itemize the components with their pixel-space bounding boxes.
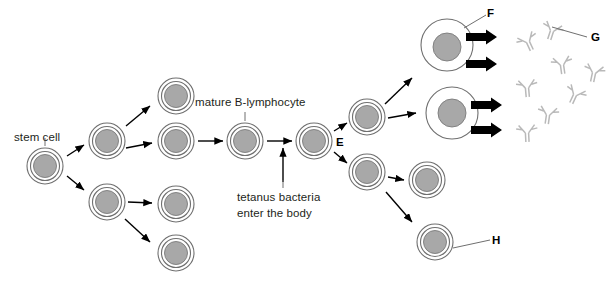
immunology-diagram: stem cell mature B-lymphocyte tetanus ba… <box>0 0 611 296</box>
arrow-daughter-upper-to-plasma-upper <box>385 78 412 104</box>
daughter-upper <box>349 99 385 135</box>
arrow-activated-to-daughter-upper <box>334 123 347 131</box>
cell-gen2-mid <box>158 123 194 159</box>
arrow-gen1l-to-gen2bottom <box>125 219 150 242</box>
label-tetanus-line1: tetanus bacteria <box>237 191 321 203</box>
arrow-daughter-lower-to-memory-lower <box>386 192 412 222</box>
label-tetanus-line2: enter the body <box>237 207 312 219</box>
antibody-8 <box>536 106 559 126</box>
label-h: H <box>492 234 500 246</box>
antibody-1 <box>515 30 541 54</box>
arrow-stem-to-upper <box>67 145 84 156</box>
arrow-gen1u-to-gen2mid <box>126 143 152 148</box>
arrow-gen1l-to-gen2low <box>128 202 152 203</box>
label-stem-cell: stem cell <box>14 131 60 143</box>
antibody-4 <box>582 63 606 84</box>
cell-gen2-bottom <box>158 235 194 271</box>
antibody-7 <box>516 124 538 142</box>
arrow-gen1u-to-gen2top <box>126 106 150 126</box>
memory-cell-lower <box>417 224 453 260</box>
antibody-3 <box>550 56 573 76</box>
antibody-5 <box>516 79 539 98</box>
leader-g <box>552 27 587 37</box>
plasma-cell-lower <box>426 87 478 139</box>
cell-gen2-low <box>158 186 194 222</box>
secretion-arrow-2 <box>466 57 497 72</box>
label-e: E <box>336 136 344 148</box>
leader-f <box>464 15 486 28</box>
arrow-daughter-upper-to-plasma-lower <box>388 113 416 118</box>
cell-gen1-lower <box>89 184 125 220</box>
stem-cell <box>27 148 63 184</box>
cell-gen1-upper <box>89 123 125 159</box>
arrow-stem-to-lower <box>67 176 84 190</box>
label-f: F <box>487 7 494 19</box>
antibody-2 <box>539 20 564 43</box>
label-g: G <box>591 31 600 43</box>
label-mature-b-lymphocyte: mature B-lymphocyte <box>195 96 306 108</box>
memory-cell-upper <box>409 162 445 198</box>
daughter-lower <box>349 154 385 190</box>
arrow-daughter-lower-to-memory-upper <box>388 177 404 180</box>
activated-b-cell <box>296 123 332 159</box>
antibody-6 <box>562 83 588 107</box>
cell-gen2-top <box>158 78 194 114</box>
leader-h <box>453 240 490 248</box>
arrow-activated-to-daughter-lower <box>334 152 347 163</box>
diagram-canvas: stem cell mature B-lymphocyte tetanus ba… <box>0 0 611 296</box>
mature-b-cell <box>227 123 263 159</box>
